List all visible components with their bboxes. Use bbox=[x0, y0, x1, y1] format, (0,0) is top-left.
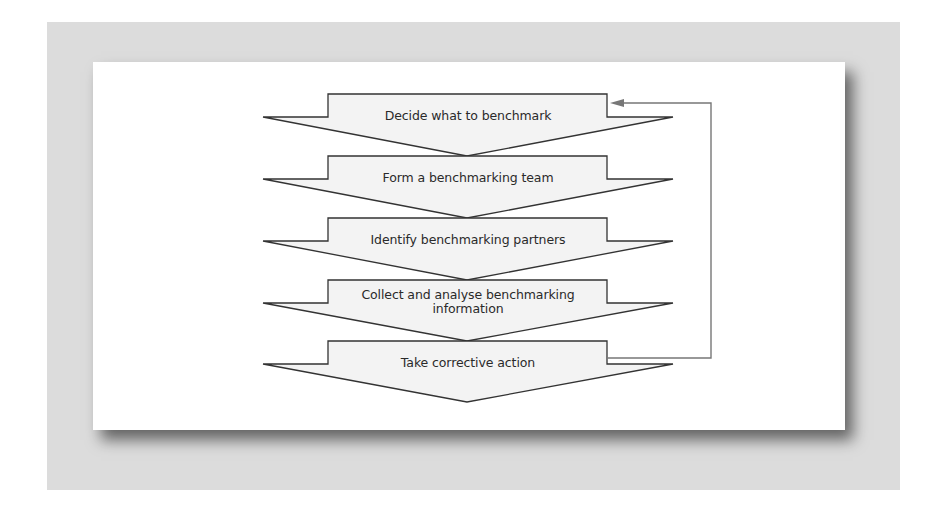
chevron-step-2 bbox=[263, 156, 673, 218]
feedback-loop-line bbox=[607, 99, 711, 358]
flow-diagram bbox=[0, 0, 931, 515]
step-label-1: Decide what to benchmark bbox=[328, 109, 608, 123]
chevron-step-5 bbox=[263, 341, 673, 402]
chevron-step-3 bbox=[263, 218, 673, 280]
step-label-4: Collect and analyse benchmarking informa… bbox=[340, 288, 596, 316]
arrow-left-icon bbox=[610, 99, 624, 107]
step-label-5: Take corrective action bbox=[328, 356, 608, 370]
step-label-2: Form a benchmarking team bbox=[328, 171, 608, 185]
step-label-3: Identify benchmarking partners bbox=[328, 233, 608, 247]
